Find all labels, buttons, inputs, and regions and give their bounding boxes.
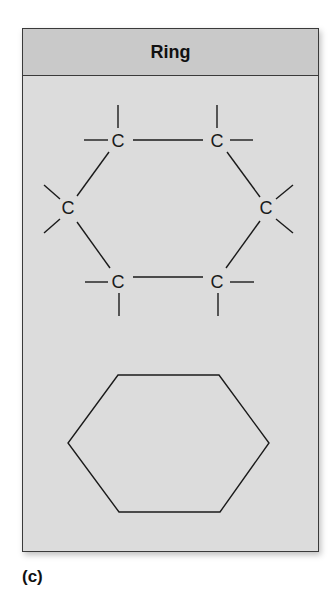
carbon-atom: C — [260, 198, 273, 218]
figure-caption: (c) — [22, 567, 43, 587]
carbon-atom: C — [112, 131, 125, 151]
ring-diagram: C C C C C C — [0, 0, 334, 605]
carbon-atom: C — [62, 198, 75, 218]
bond — [77, 152, 109, 196]
bond — [227, 152, 260, 197]
bond — [276, 185, 293, 199]
bond — [44, 185, 60, 199]
bond — [226, 221, 260, 268]
structural-formula — [44, 105, 293, 316]
carbon-atom: C — [211, 272, 224, 292]
bond — [276, 219, 293, 233]
carbon-atom: C — [112, 272, 125, 292]
bond — [77, 222, 110, 268]
bond — [44, 219, 60, 233]
carbon-atoms: C C C C C C — [62, 131, 273, 292]
hexagon-skeletal-formula — [68, 375, 269, 512]
carbon-atom: C — [211, 131, 224, 151]
